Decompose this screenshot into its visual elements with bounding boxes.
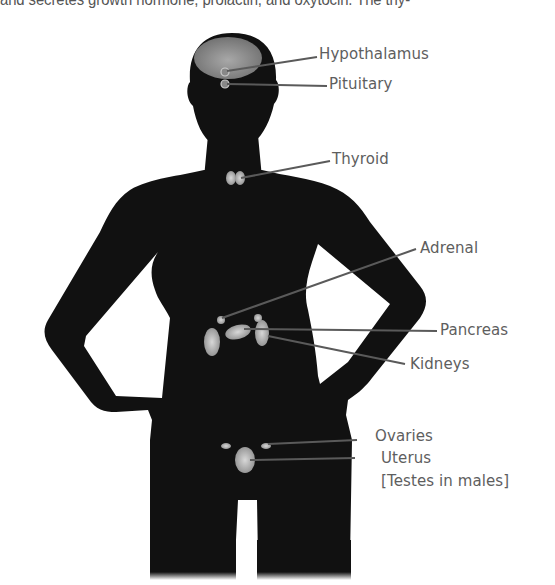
hypothalamus-gland [221,68,229,76]
label-pituitary: Pituitary [329,76,392,92]
silhouette [45,33,426,580]
label-adrenal: Adrenal [420,240,478,256]
label-thyroid: Thyroid [332,151,389,167]
label-hypothalamus: Hypothalamus [319,46,429,62]
label-ovaries: Ovaries [375,428,433,444]
label-uterus: Uterus [381,450,431,466]
kidney-right [255,320,269,346]
adrenal-gland-right [254,314,262,322]
label-testes-note: [Testes in males] [381,473,509,489]
kidney-left [204,328,220,356]
thyroid-gland-left [226,171,236,185]
endocrine-figure [0,0,555,585]
label-kidneys: Kidneys [410,356,470,372]
ovary-left [221,443,231,449]
label-pancreas: Pancreas [440,322,508,338]
